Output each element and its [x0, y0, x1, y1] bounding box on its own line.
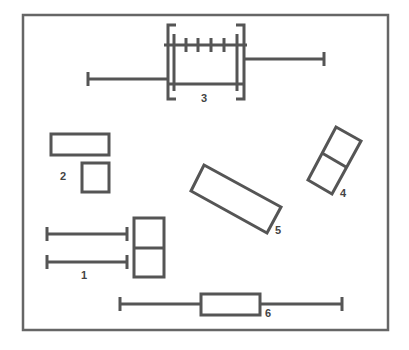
component-2-label: 2: [60, 170, 66, 182]
diagram-canvas: 3 2 1 5 4 6: [0, 0, 409, 350]
component-4: 4: [308, 127, 361, 199]
component-6-label: 6: [265, 307, 271, 319]
component-1-label: 1: [81, 269, 87, 281]
component-1: 1: [47, 218, 164, 281]
component-3: 3: [88, 25, 324, 104]
component-2: 2: [51, 134, 109, 192]
component-5: 5: [191, 165, 281, 236]
component-4-label: 4: [340, 187, 347, 199]
component-3-label: 3: [201, 92, 207, 104]
component-5-label: 5: [275, 224, 281, 236]
diagram-frame: [23, 15, 388, 330]
component-6: 6: [120, 294, 342, 319]
